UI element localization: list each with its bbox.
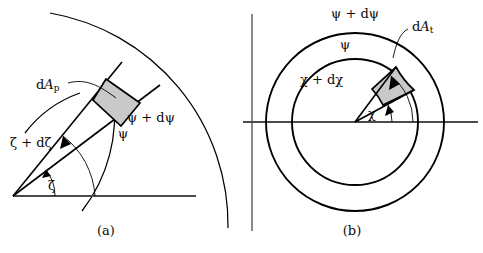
panel-a-caption: (a) bbox=[97, 223, 115, 238]
diagram-svg: dAp ζ + dζ ζ ψ ψ + dψ (a) dAt ψ + bbox=[0, 0, 483, 253]
panel-a-arc-psi-plus-dpsi bbox=[25, 93, 80, 133]
panel-b-label-chi: χ bbox=[368, 106, 376, 121]
panel-b-dAt-symbol: A bbox=[419, 19, 429, 34]
panel-a-label-zeta-plus-dzeta: ζ + dζ bbox=[10, 135, 52, 150]
figure-container: dAp ζ + dζ ζ ψ ψ + dψ (a) dAt ψ + bbox=[0, 0, 483, 253]
panel-a-label-area-element: dAp bbox=[36, 77, 60, 93]
panel-a-dAp-subscript: p bbox=[54, 83, 60, 93]
panel-b-label-psi-plus-dpsi: ψ + dψ bbox=[331, 6, 379, 21]
panel-b-angle-arrow-chi bbox=[385, 105, 394, 116]
panel-b: dAt ψ + dψ ψ χ + dχ χ (b) bbox=[243, 6, 478, 239]
panel-b-label-psi: ψ bbox=[340, 37, 350, 52]
panel-b-dAt-d: d bbox=[412, 19, 420, 34]
panel-a: dAp ζ + dζ ζ ψ ψ + dψ (a) bbox=[10, 13, 228, 238]
panel-a-label-zeta: ζ bbox=[48, 178, 55, 193]
panel-a-dAp-symbol: A bbox=[43, 77, 53, 92]
panel-b-label-chi-plus-dchi: χ + dχ bbox=[300, 72, 343, 87]
panel-a-label-psi-plus-dpsi: ψ + dψ bbox=[127, 110, 175, 125]
panel-b-label-area-element: dAt bbox=[412, 19, 434, 35]
panel-a-label-psi: ψ bbox=[118, 126, 128, 141]
panel-a-dAp-d: d bbox=[36, 77, 44, 92]
panel-b-dAt-subscript: t bbox=[430, 25, 434, 35]
panel-b-caption: (b) bbox=[343, 223, 361, 238]
